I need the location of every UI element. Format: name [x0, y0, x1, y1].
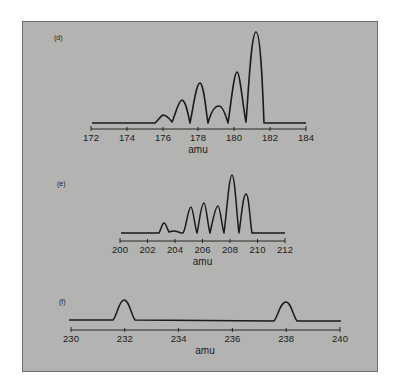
x-axis-d — [91, 126, 306, 131]
tick-label: 234 — [171, 333, 187, 344]
tick-label: 174 — [119, 132, 135, 143]
x-axis-title-d: amu — [188, 144, 207, 155]
tick-label: 202 — [140, 244, 156, 255]
tick-label: 180 — [226, 132, 242, 143]
x-axis-f — [71, 327, 340, 332]
tick-label: 172 — [83, 132, 99, 143]
tick-label: 204 — [167, 244, 183, 255]
tick-label: 236 — [224, 333, 240, 344]
tick-label: 176 — [155, 132, 171, 143]
tick-label: 184 — [298, 132, 314, 143]
spectrum-line-e — [121, 175, 285, 233]
tick-label: 240 — [332, 333, 348, 344]
tick-label: 212 — [277, 244, 293, 255]
panel-f: (f) 230 232 234 236 238 240 amu — [59, 298, 348, 356]
panel-label-f: (f) — [59, 298, 66, 306]
panel-d: (d) 172 174 176 178 180 182 184 amu — [54, 32, 314, 155]
x-axis-title-e: amu — [193, 256, 212, 267]
panel-label-d: (d) — [54, 34, 63, 42]
tick-label: 210 — [250, 244, 266, 255]
tick-label: 200 — [112, 244, 128, 255]
tick-label: 230 — [63, 333, 79, 344]
x-axis-title-f: amu — [195, 345, 214, 356]
tick-label: 206 — [195, 244, 211, 255]
spectrum-line-d — [92, 32, 306, 123]
panel-label-e: (e) — [57, 180, 66, 188]
tick-label: 232 — [117, 333, 133, 344]
tick-label: 208 — [222, 244, 238, 255]
spectrum-line-f — [69, 300, 341, 321]
tick-label: 182 — [262, 132, 278, 143]
x-axis-e — [120, 238, 285, 243]
panel-e: (e) 200 202 204 206 208 210 212 amu — [57, 175, 293, 267]
spectra-figure: (d) 172 174 176 178 180 182 184 amu (e) — [0, 0, 398, 391]
tick-label: 238 — [278, 333, 294, 344]
tick-label: 178 — [190, 132, 206, 143]
